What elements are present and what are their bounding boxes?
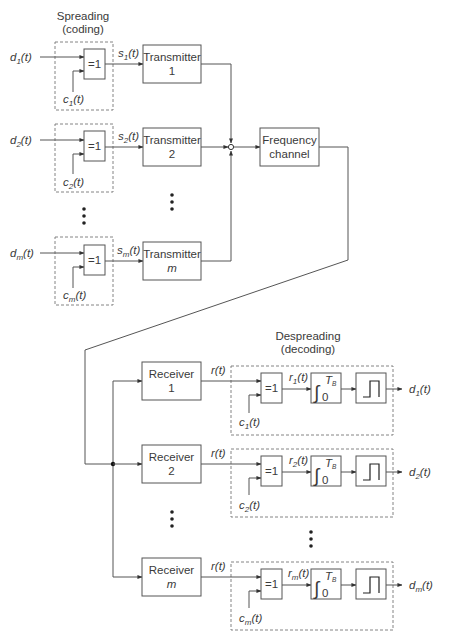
xor-label: =1 [88, 58, 101, 70]
xor-label: =1 [265, 382, 278, 394]
ellipsis-dots-spreaders [82, 207, 86, 225]
threshold-detector-block [356, 373, 386, 403]
ellipsis-dots-despreaders [309, 530, 313, 548]
receiver-label: Receiver [149, 451, 195, 463]
spreading-row-m: dm(t) =1 cm(t) sm(t) Transmitter m [10, 237, 201, 305]
code-label: c2(t) [239, 499, 260, 514]
transmitter-index: 2 [169, 148, 175, 160]
despreading-row-2: Receiver 2 r(t) =1 c2(t) r2(t) ∫ TB 0 d2… [142, 445, 431, 517]
ellipsis-dots-transmitters [170, 193, 174, 211]
input-signal-label: d1(t) [10, 51, 32, 66]
received-signal-label: r(t) [211, 560, 226, 572]
output-data-label: d1(t) [409, 383, 431, 398]
code-label: c1(t) [239, 416, 260, 431]
spread-signal-label: sm(t) [117, 244, 140, 259]
code-label: c2(t) [63, 176, 84, 191]
transmitter-index: 1 [169, 65, 175, 77]
output-data-label: dm(t) [409, 579, 433, 594]
integral-lower-limit: 0 [322, 391, 328, 403]
spreading-subtitle: (coding) [62, 23, 104, 35]
channel-label-2: channel [269, 148, 309, 160]
receiver-label: Receiver [149, 564, 195, 576]
receiver-index: 2 [168, 465, 174, 477]
input-signal-label: dm(t) [10, 247, 34, 262]
despread-signal-label: r1(t) [289, 371, 308, 386]
receiver-label: Receiver [149, 368, 195, 380]
xor-label: =1 [265, 578, 278, 590]
received-signal-label: r(t) [211, 364, 226, 376]
spreading-row-1: d1(t) =1 c1(t) s1(t) Transmitter 1 [10, 42, 201, 110]
xor-label: =1 [88, 140, 101, 152]
cdma-block-diagram: Spreading (coding) d1(t) =1 c1(t) s1(t) … [0, 0, 449, 644]
integral-lower-limit: 0 [322, 474, 328, 486]
spread-signal-label: s2(t) [118, 130, 139, 145]
frequency-channel: Frequency channel [85, 128, 348, 464]
spreading-section: Spreading (coding) d1(t) =1 c1(t) s1(t) … [10, 10, 260, 305]
despreading-row-m: Receiver m r(t) =1 cm(t) rm(t) ∫ TB 0 dm… [142, 558, 433, 630]
transmitter-label: Transmitter [143, 134, 201, 146]
code-label: c1(t) [63, 93, 84, 108]
channel-output-wire [85, 147, 348, 464]
code-label: cm(t) [239, 612, 262, 627]
transmitter-label: Transmitter [143, 248, 201, 260]
ellipsis-dots-receivers [170, 510, 174, 528]
transmitter-index: m [167, 262, 177, 274]
channel-label: Frequency [262, 134, 317, 146]
threshold-detector-block [356, 456, 386, 486]
integral-lower-limit: 0 [322, 587, 328, 599]
xor-label: =1 [88, 254, 101, 266]
spreading-row-2: d2(t) =1 c2(t) s2(t) Transmitter 2 [10, 124, 201, 192]
receiver-index: m [167, 578, 177, 590]
despreading-row-1: Receiver 1 r(t) =1 c1(t) r1(t) ∫ TB 0 d1… [142, 362, 431, 435]
spreading-title: Spreading [57, 10, 109, 22]
despreading-title: Despreading [275, 330, 340, 342]
code-label: cm(t) [63, 289, 86, 304]
transmitter-label: Transmitter [143, 51, 201, 63]
despread-signal-label: r2(t) [289, 454, 308, 469]
summing-node [228, 144, 233, 149]
despread-signal-label: rm(t) [288, 567, 310, 582]
despreading-subtitle: (decoding) [281, 343, 336, 355]
despreading-section: Despreading (decoding) Receiver 1 r(t) =… [111, 330, 433, 630]
xor-label: =1 [265, 465, 278, 477]
received-signal-label: r(t) [211, 447, 226, 459]
output-data-label: d2(t) [409, 466, 431, 481]
threshold-detector-block [356, 569, 386, 599]
spread-signal-label: s1(t) [118, 47, 139, 62]
receiver-index: 1 [168, 382, 174, 394]
input-signal-label: d2(t) [10, 134, 32, 149]
